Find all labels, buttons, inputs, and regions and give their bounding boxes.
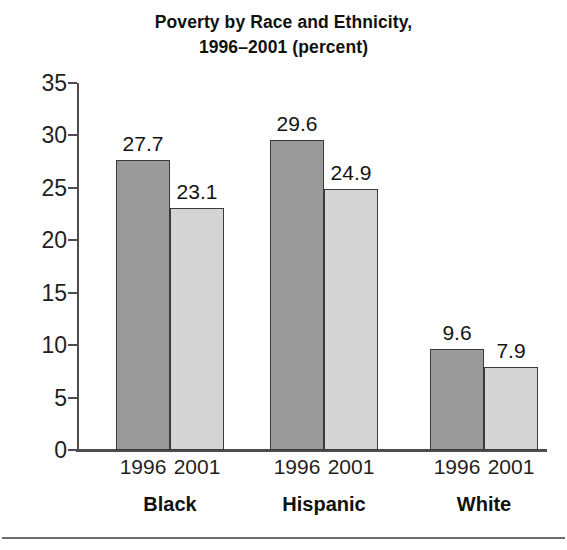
y-axis-line [77,83,79,450]
bar-black-1996 [116,160,170,450]
bar-value-label-hispanic-2001: 24.9 [331,162,372,183]
y-tick-mark [68,82,77,84]
y-tick-mark [68,239,77,241]
year-label-hispanic-2001: 2001 [328,456,375,477]
chart-title: Poverty by Race and Ethnicity, 1996–2001… [0,10,567,60]
group-label-hispanic: Hispanic [282,494,365,514]
y-tick-label: 20 [41,229,67,252]
year-label-black-2001: 2001 [174,456,221,477]
y-tick-mark [68,134,77,136]
y-tick-mark [68,344,77,346]
group-label-white: White [457,494,511,514]
year-label-white-1996: 1996 [434,456,481,477]
y-tick-mark [68,449,77,451]
bar-hispanic-1996 [270,140,324,450]
y-tick-label: 35 [41,72,67,95]
bar-value-label-white-1996: 9.6 [442,322,471,343]
y-tick-label: 25 [41,176,67,199]
bar-white-2001 [484,367,538,450]
bar-black-2001 [170,208,224,450]
chart-title-line-1: Poverty by Race and Ethnicity, [0,10,567,35]
y-tick-mark [68,292,77,294]
bar-white-1996 [430,349,484,450]
group-label-black: Black [143,494,196,514]
bar-value-label-hispanic-1996: 29.6 [277,113,318,134]
bar-hispanic-2001 [324,189,378,450]
y-tick-label: 10 [41,334,67,357]
bottom-divider [2,537,565,539]
bar-value-label-black-1996: 27.7 [123,133,164,154]
y-tick-label: 5 [54,386,67,409]
bar-value-label-white-2001: 7.9 [496,340,525,361]
bar-value-label-black-2001: 23.1 [177,181,218,202]
y-tick-mark [68,397,77,399]
y-tick-label: 30 [41,124,67,147]
year-label-white-2001: 2001 [488,456,535,477]
year-label-hispanic-1996: 1996 [274,456,321,477]
plot-area: 05101520253035 27.723.129.624.99.67.9 [77,83,547,450]
y-tick-mark [68,187,77,189]
y-tick-label: 0 [54,439,67,462]
y-tick-label: 15 [41,281,67,304]
chart-title-line-2: 1996–2001 (percent) [0,35,567,60]
year-label-black-1996: 1996 [120,456,167,477]
